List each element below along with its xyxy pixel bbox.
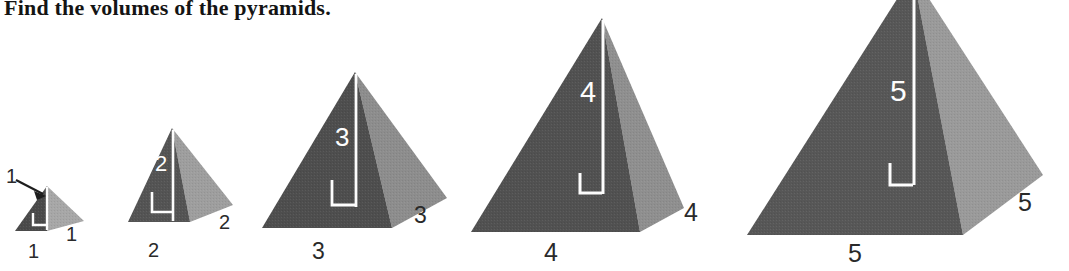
pyramid-4-base-front-label: 4: [544, 240, 558, 265]
pyramid-1-callout-arrow-shaft: [16, 180, 43, 194]
pyramid-5: [747, 0, 1043, 235]
pyramid-2: [128, 128, 233, 222]
pyramid-1-height-callout-label: 1: [6, 166, 17, 186]
pyramid-1-base-side-label: 1: [66, 224, 77, 244]
pyramid-4: [471, 18, 684, 232]
pyramid-3-base-front-label: 3: [312, 240, 325, 263]
pyramid-diagram: [0, 0, 1069, 271]
pyramid-5-base-front-label: 5: [848, 241, 862, 266]
pyramid-2-height-label: 2: [155, 153, 167, 175]
pyramid-4-height-label: 4: [580, 78, 596, 107]
pyramid-5-height-label: 5: [890, 76, 907, 106]
pyramid-5-base-side-label: 5: [1018, 190, 1032, 215]
pyramid-4-base-side-label: 4: [684, 200, 698, 225]
pyramid-3-base-side-label: 3: [414, 204, 427, 227]
figure-root: Find the volumes of the pyramids.: [0, 0, 1069, 271]
pyramid-3-height-label: 3: [335, 124, 349, 150]
pyramid-2-base-side-label: 2: [219, 212, 230, 232]
pyramid-2-base-front-label: 2: [148, 240, 159, 260]
pyramid-1-base-front-label: 1: [28, 241, 39, 261]
